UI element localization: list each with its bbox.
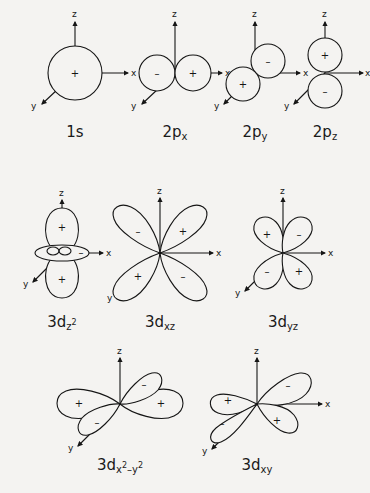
sign-negative-top: – [142,379,147,390]
axis-label-y: y [23,279,29,289]
axis-label-z: z [280,186,285,196]
axis-label-x: x [365,68,370,78]
axis-label-x: x [328,248,334,258]
sign-negative-lower-left: – [220,418,225,429]
sign-negative-upper-left: – [136,226,141,237]
axis-label-y: y [107,293,113,303]
axis-label-x: x [131,68,137,78]
sign-positive-bottom: + [58,274,66,285]
axis-label-z: z [254,346,259,356]
axis-label-y: y [131,101,137,111]
sign-positive-lower-right: + [295,266,303,277]
sign-negative-lower-left: – [265,266,270,277]
sign-positive: + [321,50,329,61]
axis-label-x: x [106,248,112,258]
sign-positive-upper-left: + [263,229,271,240]
sign-positive-top: + [58,222,66,233]
sign-positive-lower-right: + [273,415,281,426]
axis-label-z: z [157,186,162,196]
axis-label-y: y [235,288,241,298]
axis-label-z: z [252,9,257,19]
axis-label-z: z [59,188,64,198]
sign-negative-upper-right: – [286,380,291,391]
sign-positive-right: + [157,398,165,409]
orbital-label-1s: 1s [66,123,84,141]
axis-label-y: y [202,446,208,456]
sign-negative: – [155,68,160,79]
sign-negative-torus: – [79,247,84,258]
axis-label-y: y [31,101,37,111]
sign-positive-upper-left: + [224,395,232,406]
axis-label-x: x [216,248,222,258]
sign-negative-lower-right: – [181,271,186,282]
sign-positive: + [239,79,247,90]
axis-label-z: z [72,9,77,19]
sign-positive-left: + [75,398,83,409]
axis-label-y: y [214,101,220,111]
sign-negative-upper-right: – [297,229,302,240]
axis-label-y: y [68,443,74,453]
orbital-figure: z x y + 1s z x y – + 2px z x y [0,0,370,493]
axis-label-z: z [117,346,122,356]
sign-negative: – [266,56,271,67]
sign-positive: + [71,68,79,79]
axis-label-z: z [172,9,177,19]
sign-negative-bottom: – [95,417,100,428]
sign-positive: + [189,68,197,79]
sign-positive-upper-right: + [179,226,187,237]
sign-positive-lower-left: + [134,271,142,282]
axis-label-z: z [322,9,327,19]
sign-negative: – [323,86,328,97]
axis-label-x: x [325,399,331,409]
axis-label-y: y [284,101,290,111]
axis-label-x: x [303,68,309,78]
